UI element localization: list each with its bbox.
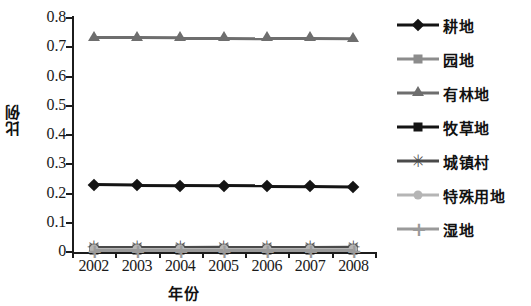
y-tick-label: 0.5 xyxy=(24,97,66,113)
legend-swatch xyxy=(396,85,440,101)
legend-label: 耕地 xyxy=(443,15,474,36)
legend-item-3[interactable]: 牧草地 xyxy=(396,110,528,144)
y-tick-label: 0.7 xyxy=(24,38,66,54)
data-point-circle-marker xyxy=(414,191,423,200)
legend-swatch xyxy=(396,51,440,67)
y-axis-title: 比例 xyxy=(2,104,23,136)
legend-swatch: ✳ xyxy=(396,153,440,169)
legend-label: 有林地 xyxy=(443,83,490,104)
chart-legend: 耕地园地有林地牧草地✳城镇村特殊用地+湿地 xyxy=(396,8,528,246)
x-axis-title: 年份 xyxy=(168,282,200,303)
plot-area: ✳✳✳✳✳✳✳+++++++ xyxy=(72,18,375,252)
data-point-diamond-marker xyxy=(412,19,425,32)
legend-label: 牧草地 xyxy=(443,117,490,138)
y-tick-label: 0.1 xyxy=(24,214,66,230)
legend-label: 城镇村 xyxy=(443,151,490,172)
legend-item-5[interactable]: 特殊用地 xyxy=(396,178,528,212)
data-point-triangle-marker xyxy=(412,86,424,96)
legend-swatch xyxy=(396,119,440,135)
legend-item-2[interactable]: 有林地 xyxy=(396,76,528,110)
legend-swatch: + xyxy=(396,221,440,237)
line-chart: 比例 年份 00.10.20.30.40.50.60.70.8 20022003… xyxy=(0,0,531,306)
series-group: +++++++ xyxy=(72,18,375,252)
legend-item-6[interactable]: +湿地 xyxy=(396,212,528,246)
data-point-square-marker xyxy=(414,55,423,64)
y-tick-label: 0.2 xyxy=(24,185,66,201)
legend-item-1[interactable]: 园地 xyxy=(396,42,528,76)
legend-label: 湿地 xyxy=(443,219,474,240)
y-tick-label: 0.6 xyxy=(24,68,66,84)
legend-swatch xyxy=(396,17,440,33)
y-tick-label: 0.3 xyxy=(24,155,66,171)
legend-label: 特殊用地 xyxy=(443,185,505,206)
legend-item-0[interactable]: 耕地 xyxy=(396,8,528,42)
y-tick-label: 0.8 xyxy=(24,9,66,25)
legend-label: 园地 xyxy=(443,49,474,70)
data-point-square-marker xyxy=(414,123,423,132)
legend-swatch xyxy=(396,187,440,203)
legend-item-4[interactable]: ✳城镇村 xyxy=(396,144,528,178)
y-tick-label: 0 xyxy=(24,243,66,259)
y-tick-label: 0.4 xyxy=(24,126,66,142)
